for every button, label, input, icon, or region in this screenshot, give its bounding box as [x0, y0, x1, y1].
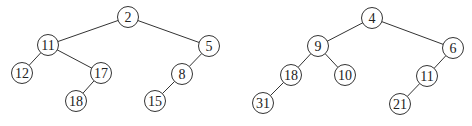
binary-trees-diagram: 21151217818154961810113121: [0, 0, 472, 126]
node-label: 6: [450, 41, 457, 56]
right-tree-node-21: 21: [390, 94, 411, 115]
node-label: 18: [284, 68, 298, 83]
node-label: 2: [125, 10, 132, 25]
node-label: 4: [369, 11, 376, 26]
right-tree-node-11: 11: [417, 66, 438, 87]
left-tree-node-11: 11: [38, 35, 59, 56]
node-label: 8: [179, 67, 186, 82]
right-tree-node-18: 18: [281, 65, 302, 86]
left-tree-node-17: 17: [91, 63, 112, 84]
right-tree-edge-4-6: [372, 18, 453, 48]
node-label: 5: [206, 39, 213, 54]
left-tree-node-8: 8: [172, 64, 193, 85]
node-label: 21: [393, 97, 407, 112]
right-tree-node-9: 9: [308, 36, 329, 57]
edges-layer: [22, 17, 453, 104]
node-label: 17: [94, 66, 108, 81]
right-tree-node-31: 31: [253, 93, 274, 114]
left-tree-node-15: 15: [145, 91, 166, 112]
left-tree-edge-2-11: [48, 17, 128, 45]
node-label: 31: [256, 96, 270, 111]
left-tree-edge-2-5: [128, 17, 209, 46]
right-tree-node-4: 4: [362, 8, 383, 29]
node-label: 15: [148, 94, 162, 109]
left-tree-node-18: 18: [66, 91, 87, 112]
node-label: 9: [315, 39, 322, 54]
left-tree-node-2: 2: [118, 7, 139, 28]
left-tree-node-12: 12: [12, 63, 33, 84]
nodes-layer: 21151217818154961810113121: [12, 7, 464, 115]
node-label: 12: [15, 66, 29, 81]
left-tree-node-5: 5: [199, 36, 220, 57]
node-label: 10: [338, 68, 352, 83]
node-label: 11: [420, 69, 433, 84]
node-label: 18: [69, 94, 83, 109]
node-label: 11: [41, 38, 54, 53]
right-tree-node-6: 6: [443, 38, 464, 59]
right-tree-node-10: 10: [335, 65, 356, 86]
